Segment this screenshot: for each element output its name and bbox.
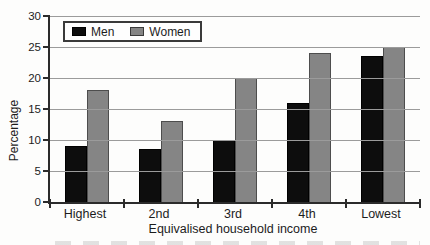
- y-tick-25: [43, 46, 50, 48]
- plot-area: [48, 16, 420, 204]
- y-tick-label-0: 0: [10, 196, 41, 208]
- legend-swatch-women-icon: [130, 27, 144, 36]
- bar-men-4th: [287, 103, 309, 202]
- y-tick-15: [43, 108, 50, 110]
- legend-swatch-men-icon: [72, 27, 86, 36]
- y-tick-label-15: 15: [10, 103, 41, 115]
- bar-women-highest: [87, 90, 109, 202]
- legend-label-women: Women: [149, 25, 190, 39]
- bar-women-2nd: [161, 121, 183, 202]
- legend-item-women: Women: [130, 25, 190, 39]
- gridline-25: [50, 47, 420, 48]
- x-category-labels: Highest2nd3rd4thLowest: [48, 207, 418, 221]
- legend-item-men: Men: [72, 25, 114, 39]
- x-category-4th: 4th: [270, 207, 344, 221]
- gridline-5: [50, 171, 420, 172]
- y-tick-30: [43, 15, 50, 17]
- y-tick-20: [43, 77, 50, 79]
- bar-men-highest: [65, 146, 87, 202]
- x-category-highest: Highest: [48, 207, 122, 221]
- x-category-lowest: Lowest: [344, 207, 418, 221]
- y-tick-5: [43, 170, 50, 172]
- gridline-15: [50, 109, 420, 110]
- legend-label-men: Men: [91, 25, 114, 39]
- x-category-2nd: 2nd: [122, 207, 196, 221]
- x-tick-5: [419, 199, 421, 208]
- legend: MenWomen: [63, 21, 202, 42]
- y-tick-label-20: 20: [10, 72, 41, 84]
- x-axis-label: Equivalised household income: [48, 222, 418, 236]
- gridline-30: [50, 16, 420, 17]
- bar-men-2nd: [139, 149, 161, 202]
- gridline-10: [50, 140, 420, 141]
- y-tick-label-30: 30: [10, 10, 41, 22]
- bar-chart-figure: Percentage MenWomen Highest2nd3rd4thLowe…: [0, 0, 430, 245]
- x-category-3rd: 3rd: [196, 207, 270, 221]
- bar-women-4th: [309, 53, 331, 202]
- cropped-caption-remnant: [55, 241, 420, 245]
- gridline-20: [50, 78, 420, 79]
- y-tick-label-5: 5: [10, 165, 41, 177]
- y-tick-label-25: 25: [10, 41, 41, 53]
- bar-women-lowest: [383, 47, 405, 202]
- y-tick-10: [43, 139, 50, 141]
- y-tick-label-10: 10: [10, 134, 41, 146]
